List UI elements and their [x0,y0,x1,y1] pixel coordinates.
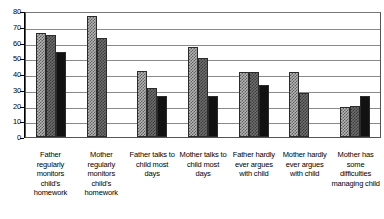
bar [157,96,167,137]
plot-wrapper: 01020304050607080 [0,0,384,150]
x-axis-category-labels: Father regularly monitors child's homewo… [25,150,381,216]
y-tick-mark [20,138,24,139]
bar [289,72,299,137]
bar-group [228,13,279,137]
x-axis-label: Mother hardly ever argues with child [279,150,330,216]
bar [350,106,360,138]
bar [56,52,66,137]
bar [87,16,97,137]
bar [147,88,157,137]
bars-layer [26,13,380,137]
bar [188,47,198,137]
bar [208,96,218,137]
y-axis-line [24,12,25,138]
x-axis-label: Father talks to child most days [127,150,178,216]
bar [340,107,350,137]
bar-group [26,13,77,137]
bar [249,72,259,137]
bar [198,58,208,137]
bar-group [127,13,178,137]
bar-group [279,13,330,137]
bar-group [178,13,229,137]
plot-area [25,12,381,138]
bar-group [329,13,380,137]
bar [360,96,370,137]
x-axis-label: Mother talks to child most days [178,150,229,216]
bar-chart: 01020304050607080 Father regularly monit… [0,0,384,219]
bar [239,72,249,137]
x-axis-label: Mother has some difficulties managing ch… [330,150,381,216]
bar [97,38,107,137]
x-axis-label: Mother regularly monitors child's homewo… [76,150,127,216]
bar [137,71,147,137]
x-axis-label: Father hardly ever argues with child [228,150,279,216]
bar [46,35,56,137]
x-axis-label: Father regularly monitors child's homewo… [25,150,76,216]
y-axis: 01020304050607080 [0,0,24,150]
bar [36,33,46,137]
bar-group [77,13,128,137]
bar [259,85,269,137]
bar [299,93,309,137]
